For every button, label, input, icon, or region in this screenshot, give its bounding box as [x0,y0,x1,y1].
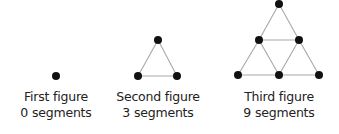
figure-3-graph [234,0,323,79]
segment [259,40,279,75]
node-dot [173,72,181,80]
figure-2-caption: Second figure 3 segments [103,89,213,121]
segment [279,4,299,40]
figure-2-segments: 3 segments [103,105,213,121]
segment [158,40,177,76]
node-dot [295,36,303,44]
segment [299,40,319,75]
figure-3-caption: Third figure 9 segments [224,89,334,121]
node-dot [154,36,162,44]
figure-3-segments: 9 segments [224,105,334,121]
node-dot [52,72,60,80]
segment [138,40,158,76]
figure-1-caption: First figure 0 segments [1,89,111,121]
segment [259,4,279,40]
figure-1-title: First figure [1,89,111,105]
node-dot [134,72,142,80]
node-dot [234,71,242,79]
node-dot [275,71,283,79]
figure-1-segments: 0 segments [1,105,111,121]
node-dot [315,71,323,79]
figure-2-title: Second figure [103,89,213,105]
segment [238,40,259,75]
segment [279,40,299,75]
figure-1-graph [52,72,60,80]
node-dot [255,36,263,44]
node-dot [275,0,283,8]
figure-2-graph [134,36,181,80]
figure-3-title: Third figure [224,89,334,105]
